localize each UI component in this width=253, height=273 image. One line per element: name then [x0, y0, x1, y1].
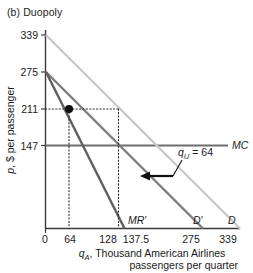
x-tick-label-275: 275 — [182, 233, 200, 245]
guide-lines — [46, 109, 119, 228]
curve-label-mc: MC — [232, 139, 249, 151]
y-tick-label-147: 147 — [20, 140, 38, 152]
x-tick-label-339: 339 — [219, 233, 237, 245]
curve-label-d-prime: D′ — [193, 214, 204, 226]
curve-label-mr-prime: MR′ — [128, 214, 147, 226]
x-tick-label-137-5: 137.5 — [123, 233, 149, 245]
shift-annotation-rest: = 64 — [189, 146, 213, 158]
duopoly-figure: (b) Duopoly — [0, 0, 253, 273]
equilibrium-point-marker — [65, 105, 73, 113]
y-tick-label-275: 275 — [20, 66, 38, 78]
x-axis-caption-rest: , Thousand American Airlines — [90, 247, 226, 259]
y-axis-caption: p, $ per passenger — [4, 86, 16, 175]
duopoly-plot: 339 275 211 147 0 64 128 137.5 275 339 M… — [0, 0, 253, 273]
x-tick-label-128: 128 — [99, 233, 117, 245]
x-axis-caption-line2: passengers per quarter — [129, 259, 238, 271]
y-tick-label-211: 211 — [21, 103, 38, 115]
curve-mr-prime — [46, 72, 125, 229]
x-tick-label-0: 0 — [42, 233, 48, 245]
x-tick-label-64: 64 — [64, 233, 76, 245]
y-tick-label-339: 339 — [20, 29, 38, 41]
shift-annotation-label: qU = 64 — [178, 146, 213, 161]
curve-label-d: D — [228, 214, 236, 226]
y-axis-caption-rest: , $ per passenger — [4, 86, 16, 168]
